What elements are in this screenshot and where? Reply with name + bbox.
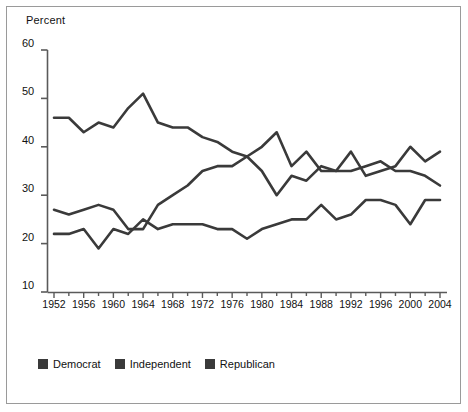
x-tick-label: 1992 <box>339 298 362 310</box>
y-tick-label: 50 <box>22 85 34 97</box>
legend-swatch-icon <box>38 359 48 369</box>
legend-swatch-icon <box>205 359 215 369</box>
legend-label: Democrat <box>53 358 101 370</box>
axes <box>48 50 448 293</box>
legend-item-republican[interactable]: Republican <box>205 358 275 370</box>
y-tick-label: 30 <box>22 182 34 194</box>
y-tick-label: 20 <box>22 231 34 243</box>
x-tick-label: 1972 <box>191 298 214 310</box>
y-tick-label: 60 <box>22 37 34 49</box>
x-tick-label: 2000 <box>399 298 422 310</box>
x-tick-label: 1956 <box>72 298 95 310</box>
y-tick-label: 10 <box>22 279 34 291</box>
x-tick-label: 1984 <box>280 298 303 310</box>
data-series-group <box>54 94 440 249</box>
x-tick-label: 1980 <box>250 298 273 310</box>
legend-swatch-icon <box>115 359 125 369</box>
x-tick-label: 1964 <box>131 298 154 310</box>
chart-legend: DemocratIndependentRepublican <box>38 358 275 370</box>
legend-label: Independent <box>130 358 191 370</box>
x-tick-label: 1976 <box>220 298 243 310</box>
series-line-republican <box>54 200 440 248</box>
x-tick-label: 1952 <box>42 298 65 310</box>
legend-label: Republican <box>220 358 275 370</box>
x-tick-label: 1968 <box>161 298 184 310</box>
y-tick-marks <box>41 50 48 292</box>
x-tick-label: 1996 <box>369 298 392 310</box>
series-line-independent <box>54 147 440 229</box>
legend-item-democrat[interactable]: Democrat <box>38 358 101 370</box>
x-tick-label: 1960 <box>102 298 125 310</box>
y-tick-label: 40 <box>22 134 34 146</box>
x-tick-label: 1988 <box>310 298 333 310</box>
legend-item-independent[interactable]: Independent <box>115 358 191 370</box>
x-tick-label: 2004 <box>428 298 451 310</box>
line-chart-plot <box>0 0 468 412</box>
